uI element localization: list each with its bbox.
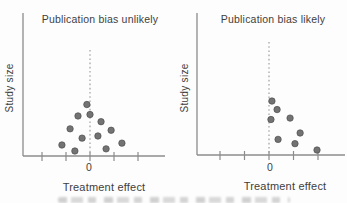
right-plot-title: Publication bias likely [221, 13, 325, 25]
funnel-plot-right [197, 13, 345, 160]
funnel-plots-canvas [0, 0, 347, 203]
funnel-plot-figure: Publication bias unlikely Publication bi… [0, 0, 347, 203]
study-data-point [275, 136, 281, 142]
left-zero-tick-label: 0 [86, 161, 92, 173]
study-data-point [79, 135, 85, 141]
cropped-caption-fragment [58, 197, 290, 203]
left-x-axis-label: Treatment effect [63, 181, 146, 193]
study-data-point [269, 98, 275, 104]
left-plot-title: Publication bias unlikely [42, 13, 158, 25]
right-zero-tick-label: 0 [267, 161, 273, 173]
right-y-axis-label: Study size [179, 63, 190, 112]
study-data-point [75, 113, 81, 119]
study-data-point [287, 115, 293, 121]
right-x-axis-label: Treatment effect [244, 180, 327, 192]
study-data-point [84, 101, 90, 107]
study-data-point [297, 130, 303, 136]
funnel-plot-left [23, 13, 165, 161]
study-data-point [67, 126, 73, 132]
study-data-point [292, 140, 298, 146]
study-data-point [98, 118, 104, 124]
study-data-point [87, 111, 93, 117]
study-data-point [314, 147, 320, 153]
study-data-point [103, 146, 109, 152]
study-data-point [72, 148, 78, 154]
study-data-point [274, 106, 280, 112]
study-data-point [268, 116, 274, 122]
left-y-axis-label: Study size [4, 63, 15, 112]
study-data-point [119, 140, 125, 146]
study-data-point [95, 133, 101, 139]
study-data-point [59, 142, 65, 148]
study-data-point [108, 127, 114, 133]
